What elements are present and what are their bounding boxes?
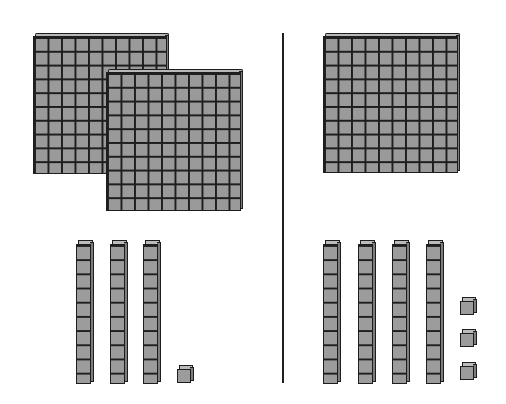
right-group-unit-cube-2 (460, 329, 477, 347)
rod-front-face (392, 244, 407, 384)
right-group-unit-cube-1 (460, 297, 477, 315)
right-group-ten-rod-2 (358, 240, 376, 384)
rod-front-face (323, 244, 338, 384)
right-group-hundred-flat (323, 33, 461, 173)
rod-front-face (110, 244, 125, 384)
unit-front-face (177, 369, 191, 383)
right-group-ten-rod-4 (426, 240, 444, 384)
left-group-ten-rod-3 (143, 240, 161, 384)
flat-grid-face (106, 72, 241, 211)
rod-front-face (76, 244, 91, 384)
right-group-ten-rod-3 (392, 240, 410, 384)
rod-front-face (143, 244, 158, 384)
left-group-unit-cube-1 (177, 365, 194, 383)
vertical-divider-line (282, 33, 284, 383)
left-group-ten-rod-1 (76, 240, 94, 384)
right-group-unit-cube-3 (460, 362, 477, 380)
flat-grid-face (323, 36, 458, 173)
unit-front-face (460, 301, 474, 315)
left-group-hundred-flat-front (106, 69, 244, 211)
unit-front-face (460, 366, 474, 380)
unit-front-face (460, 333, 474, 347)
right-group-ten-rod-1 (323, 240, 341, 384)
rod-front-face (426, 244, 441, 384)
left-group-ten-rod-2 (110, 240, 128, 384)
rod-front-face (358, 244, 373, 384)
